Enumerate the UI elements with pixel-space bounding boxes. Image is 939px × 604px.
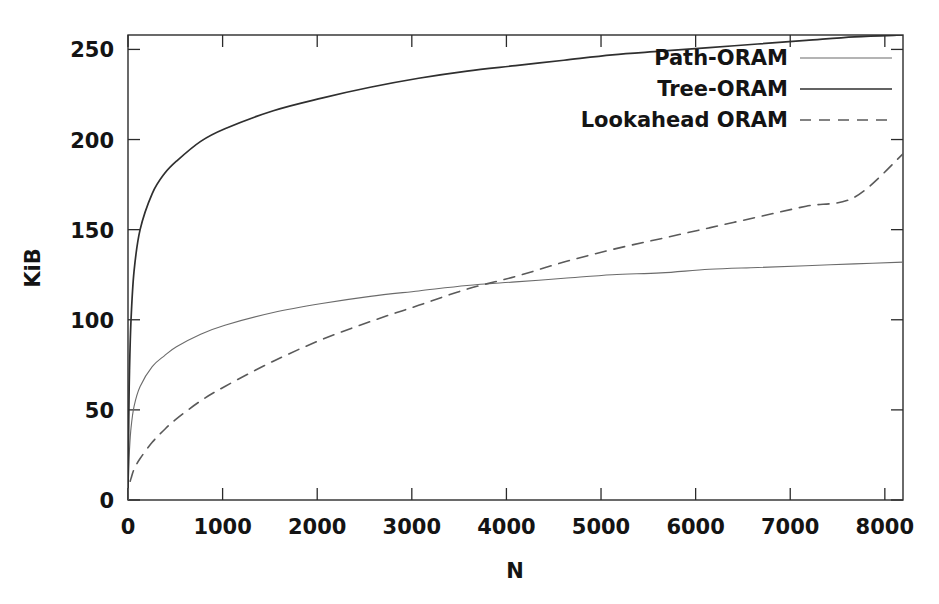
y-tick-label: 0 — [99, 489, 114, 513]
legend-label: Path-ORAM — [654, 46, 788, 70]
x-axis-ticks: 010002000300040005000600070008000 — [121, 35, 914, 539]
x-tick-label: 5000 — [572, 515, 630, 539]
y-tick-label: 150 — [70, 219, 114, 243]
series-line — [128, 154, 903, 500]
y-tick-label: 50 — [85, 399, 114, 423]
y-axis-title: KiB — [21, 248, 45, 287]
x-tick-label: 4000 — [477, 515, 535, 539]
x-axis-title: N — [506, 559, 524, 583]
x-tick-label: 3000 — [383, 515, 441, 539]
series-line — [128, 35, 903, 500]
y-tick-label: 100 — [70, 309, 114, 333]
y-tick-label: 200 — [70, 129, 114, 153]
series-group — [128, 35, 903, 500]
x-tick-label: 7000 — [761, 515, 819, 539]
line-chart: 050100150200250 010002000300040005000600… — [0, 0, 939, 604]
chart-figure: 050100150200250 010002000300040005000600… — [0, 0, 939, 604]
legend-label: Tree-ORAM — [657, 77, 788, 101]
plot-frame — [128, 35, 903, 500]
y-tick-label: 250 — [70, 38, 114, 62]
chart-legend: Path-ORAMTree-ORAMLookahead ORAM — [581, 46, 892, 132]
x-tick-label: 0 — [121, 515, 136, 539]
x-tick-label: 6000 — [666, 515, 724, 539]
x-tick-label: 1000 — [193, 515, 251, 539]
series-line — [128, 262, 903, 500]
legend-label: Lookahead ORAM — [581, 108, 788, 132]
x-tick-label: 8000 — [856, 515, 914, 539]
x-tick-label: 2000 — [288, 515, 346, 539]
